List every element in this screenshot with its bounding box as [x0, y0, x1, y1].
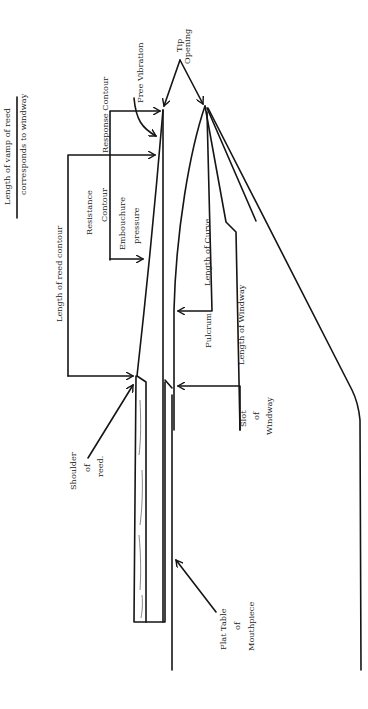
- facing-curve: [174, 106, 205, 430]
- label-vamp-1: Length of vamp of reed: [2, 108, 12, 205]
- label-fulcrum: Fulcrum: [203, 313, 213, 348]
- label-length-of-curve: Length of Curve: [202, 218, 212, 286]
- reed-contour-bracket-top: [68, 155, 155, 376]
- label-flat-table: Flat Table: [218, 608, 228, 650]
- label-slot-of: of: [251, 411, 261, 420]
- label-resistance: Resistance: [84, 190, 94, 235]
- label-windway: Windway: [264, 397, 274, 435]
- label-reed-contour: Length of reed contour: [54, 226, 64, 322]
- tip-arrow-reed: [164, 60, 180, 106]
- rail-line: [207, 108, 256, 221]
- label-pressure-text: pressure: [131, 207, 141, 244]
- mouthpiece-outer-profile: [208, 108, 361, 670]
- label-reed: reed.: [95, 456, 105, 477]
- length-of-windway-bracket: [178, 386, 240, 430]
- label-opening: Opening: [182, 29, 192, 64]
- label-flat-table-of: of: [232, 621, 242, 630]
- label-shoulder-of: of: [82, 463, 92, 472]
- reed-back: [146, 382, 165, 622]
- reed-mouthpiece-diagram: Length of vamp of reed corresponds to wi…: [0, 0, 368, 709]
- flat-table-arrow: [176, 560, 216, 612]
- tip-arrow-mouthpiece: [180, 60, 203, 104]
- label-resistance-contour: Contour: [99, 188, 109, 222]
- label-mouthpiece: Mouthpiece: [246, 602, 256, 651]
- label-free-vibration: Free Vibration: [135, 42, 145, 103]
- label-vamp-2: corresponds to windway: [18, 93, 28, 195]
- table-joint: [165, 380, 172, 388]
- reed-bark-texture: [139, 400, 142, 618]
- label-embouchure: Embouchure: [117, 197, 127, 250]
- shoulder-arrow: [88, 385, 133, 458]
- label-response-contour: Response Contour: [100, 77, 110, 153]
- label-shoulder: Shoulder: [68, 452, 78, 490]
- label-length-of-windway: Length of Windway: [236, 284, 246, 365]
- label-slot: Slot: [238, 410, 248, 427]
